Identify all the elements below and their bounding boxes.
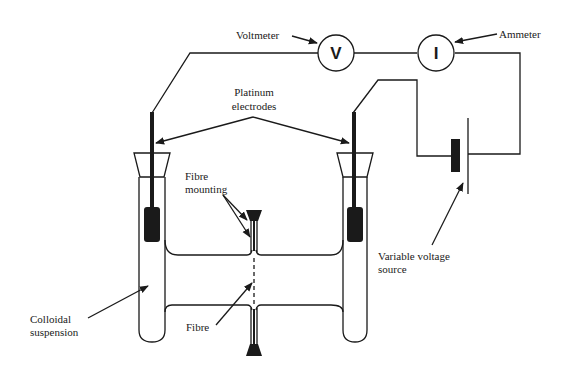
source-arrow: [432, 183, 463, 245]
voltmeter-label: Voltmeter: [236, 29, 280, 41]
wire-right-electrode-to-source: [353, 80, 452, 156]
electrophoresis-diagram: V I Voltmeter Ammeter Platinum electrode…: [0, 0, 574, 372]
suspension-label-line1: Colloidal: [30, 313, 71, 325]
left-electrode-rod: [150, 112, 154, 208]
left-electrode-arrow: [156, 117, 253, 143]
ammeter-symbol: I: [434, 44, 439, 63]
right-electrode-arrow: [253, 117, 349, 143]
right-electrode-plate: [347, 207, 363, 242]
mounting-label-line1: Fibre: [185, 170, 208, 182]
right-electrode-rod: [352, 112, 356, 208]
fibre-arrow: [216, 283, 252, 325]
suspension-label-line2: suspension: [30, 326, 79, 338]
voltmeter-symbol: V: [330, 44, 342, 63]
electrodes-label-line2: electrodes: [232, 100, 277, 112]
upper-mount-core: [253, 221, 255, 251]
lower-mount-core: [253, 309, 255, 344]
ammeter-arrow: [455, 34, 497, 42]
mounting-arrow-top: [223, 195, 247, 220]
electrodes-label-line1: Platinum: [234, 86, 274, 98]
left-electrode-plate: [144, 207, 160, 242]
ammeter-label: Ammeter: [499, 28, 541, 40]
fibre-label: Fibre: [186, 321, 209, 333]
source-label-line1: Variable voltage: [378, 250, 450, 262]
mounting-arrow-bottom: [223, 195, 250, 237]
voltmeter-arrow: [292, 36, 317, 43]
battery-negative-plate: [451, 139, 460, 172]
wire-ammeter-to-source: [455, 53, 520, 154]
upper-mount-cap: [246, 210, 262, 221]
mounting-label-line2: mounting: [185, 183, 228, 195]
source-label-line2: source: [378, 263, 407, 275]
lower-mount-cap: [246, 344, 262, 356]
